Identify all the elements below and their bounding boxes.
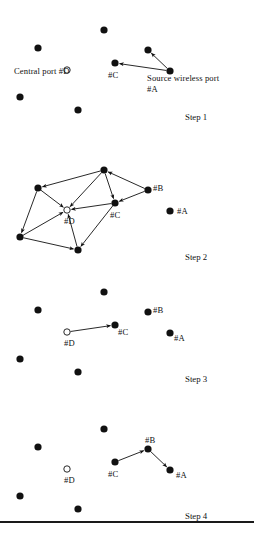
node-n_botleft xyxy=(16,233,23,240)
step-caption: Step 1 xyxy=(185,112,207,122)
node-n_left xyxy=(34,184,41,191)
edge-n_botleft-to-D xyxy=(23,212,63,235)
node-label-A: #A xyxy=(176,470,187,481)
node-C xyxy=(111,458,118,465)
node-B xyxy=(144,186,151,193)
node-label-A: #A xyxy=(174,333,185,344)
node-n_left xyxy=(34,306,41,313)
edge-D-to-C xyxy=(71,326,111,332)
node-label-D: #D xyxy=(64,216,75,227)
node-A xyxy=(166,466,173,473)
edge-n_left-to-n_botleft xyxy=(22,191,37,232)
step-panel: #D#C#B#AStep 3 xyxy=(0,262,254,402)
node-label-C: #C xyxy=(118,327,128,338)
node-n_bottom xyxy=(74,368,81,375)
node-D xyxy=(64,466,70,472)
node-n_top xyxy=(100,425,107,432)
bottom-divider xyxy=(0,521,254,523)
step-caption: Step 3 xyxy=(185,374,207,384)
edge-B-to-A xyxy=(151,451,167,466)
node-label-C: #C xyxy=(108,70,118,81)
node-C xyxy=(111,199,118,206)
node-A xyxy=(166,207,173,214)
edge-n_botleft-to-n_bottom xyxy=(24,238,74,249)
edge-B-to-n_top xyxy=(108,172,145,189)
node-n_bottom xyxy=(74,246,81,253)
edge-n_top-to-n_left xyxy=(42,171,100,187)
node-label-A: #A xyxy=(177,206,188,217)
node-C xyxy=(111,59,118,66)
step-graph xyxy=(0,399,254,533)
node-label-B: #B xyxy=(153,305,163,316)
edge-C-to-B xyxy=(118,451,143,461)
edge-n_left-to-D xyxy=(41,190,63,207)
network-steps-figure: Central port #D#CSource wireless port#AS… xyxy=(0,0,254,533)
node-label-B: #B xyxy=(153,183,163,194)
step-caption: Step 4 xyxy=(185,511,207,521)
node-label-C: #C xyxy=(110,210,120,221)
edge-A-to-C xyxy=(120,64,167,71)
edge-A-to-B xyxy=(151,53,167,68)
node-D xyxy=(64,329,70,335)
step-graph xyxy=(0,140,254,280)
central-port-label: Central port #D xyxy=(14,66,69,77)
edge-C-to-D xyxy=(72,204,112,210)
node-n_bottom xyxy=(74,505,81,512)
node-A xyxy=(166,329,173,336)
node-n_top xyxy=(100,26,107,33)
edge-n_top-to-C xyxy=(105,173,113,198)
node-B xyxy=(144,308,151,315)
node-B xyxy=(144,46,151,53)
step-panel: #D#C#B#AStep 4 xyxy=(0,399,254,533)
node-n_top xyxy=(100,288,107,295)
node-n_left xyxy=(34,443,41,450)
source-port-label-id: #A xyxy=(147,84,158,95)
node-label-D: #D xyxy=(64,475,75,486)
edge-B-to-C xyxy=(119,191,144,201)
source-port-label: Source wireless port xyxy=(147,73,219,84)
node-n_botleft xyxy=(16,492,23,499)
node-label-B: #B xyxy=(145,435,155,446)
step-panel: #D#C#B#AStep 2 xyxy=(0,140,254,280)
node-D xyxy=(64,207,70,213)
node-n_botleft xyxy=(16,355,23,362)
node-n_top xyxy=(100,166,107,173)
edge-C-to-n_bottom xyxy=(81,206,113,247)
node-n_botleft xyxy=(16,93,23,100)
step-caption: Step 2 xyxy=(185,252,207,262)
node-n_left xyxy=(34,44,41,51)
node-n_bottom xyxy=(74,106,81,113)
node-label-D: #D xyxy=(64,338,75,349)
step-panel: Central port #D#CSource wireless port#AS… xyxy=(0,0,254,140)
node-label-C: #C xyxy=(108,469,118,480)
node-B xyxy=(144,445,151,452)
